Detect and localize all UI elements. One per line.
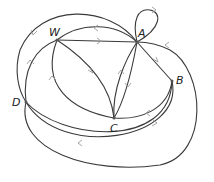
edge-c-a bbox=[114, 42, 137, 118]
node-b bbox=[171, 80, 174, 83]
arrow-icon bbox=[49, 76, 56, 80]
edge-c-w bbox=[52, 40, 114, 118]
edge-a-c bbox=[114, 42, 137, 118]
edge-a-b bbox=[137, 42, 172, 81]
label-b: B bbox=[176, 74, 184, 87]
label-c: C bbox=[110, 122, 118, 135]
arrow-icon bbox=[78, 140, 82, 146]
arrow-icon bbox=[94, 25, 98, 31]
node-a bbox=[136, 41, 139, 44]
graph-diagram: W A B C D bbox=[0, 0, 214, 182]
edge-w-c bbox=[57, 40, 114, 118]
arrow-icon bbox=[31, 30, 37, 35]
node-c bbox=[113, 117, 116, 120]
edge-d-a-outer bbox=[17, 14, 137, 102]
label-a: A bbox=[137, 27, 146, 40]
label-d: D bbox=[12, 96, 20, 109]
edge-w-a bbox=[57, 40, 137, 42]
label-w: W bbox=[49, 26, 61, 39]
edge-b-d bbox=[26, 81, 173, 137]
arrow-icon bbox=[165, 42, 169, 48]
node-d bbox=[25, 101, 28, 104]
